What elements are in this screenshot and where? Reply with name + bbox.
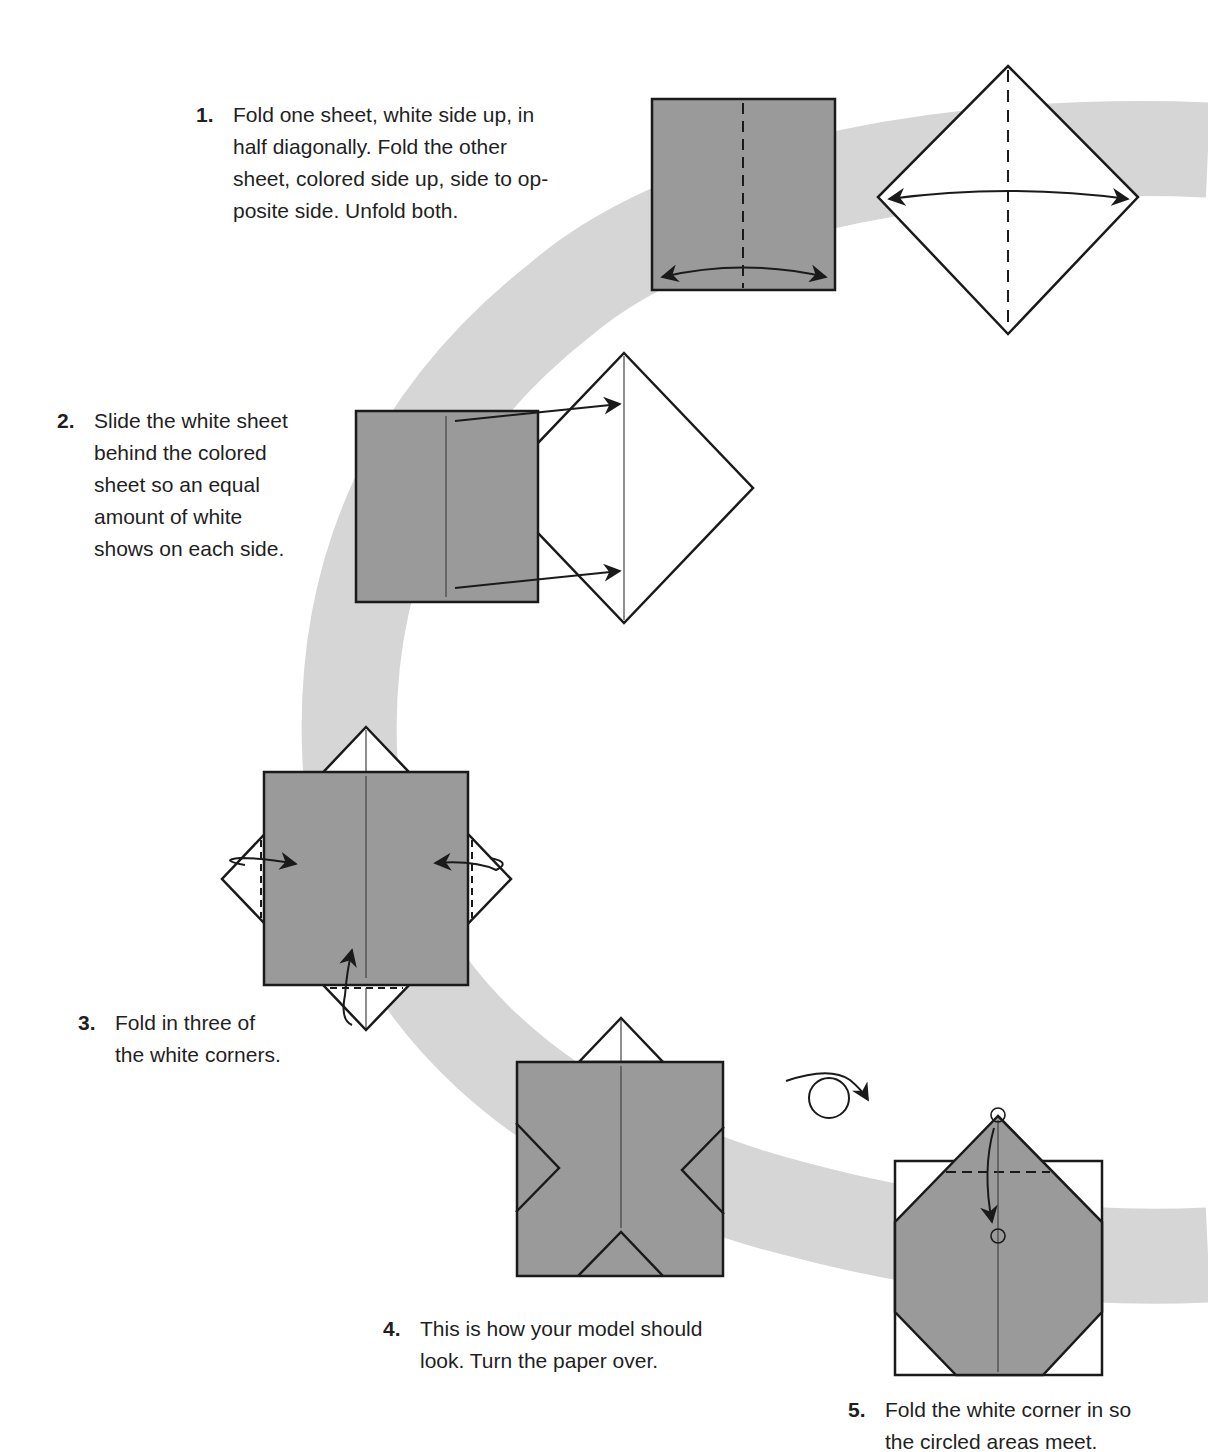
step-number: 1. xyxy=(196,99,214,131)
step-number: 2. xyxy=(57,405,75,437)
step-number: 5. xyxy=(848,1394,866,1426)
step-2-instruction: 2. Slide the white sheet behind the colo… xyxy=(57,405,357,565)
step-text: Slide the white sheet behind the colored… xyxy=(57,405,357,565)
step-5-instruction: 5. Fold the white corner in so the circl… xyxy=(848,1394,1208,1452)
step-1-instruction: 1. Fold one sheet, white side up, in hal… xyxy=(196,99,636,227)
step-number: 3. xyxy=(78,1007,96,1039)
step-text: Fold the white corner in so the circled … xyxy=(848,1394,1208,1452)
step-3-diagram xyxy=(222,727,511,1030)
step-3-instruction: 3. Fold in three of the white corners. xyxy=(78,1007,338,1071)
step-text: Fold in three of the white corners. xyxy=(78,1007,338,1071)
step-4-instruction: 4. This is how your model should look. T… xyxy=(383,1313,783,1377)
step-5-diagram xyxy=(895,1108,1102,1375)
step-1-colored-square xyxy=(652,99,835,290)
step-text: Fold one sheet, white side up, in half d… xyxy=(196,99,636,227)
step-number: 4. xyxy=(383,1313,401,1345)
background-band xyxy=(349,149,1208,1257)
step-text: This is how your model should look. Turn… xyxy=(383,1313,783,1377)
turn-over-icon xyxy=(786,1073,868,1118)
